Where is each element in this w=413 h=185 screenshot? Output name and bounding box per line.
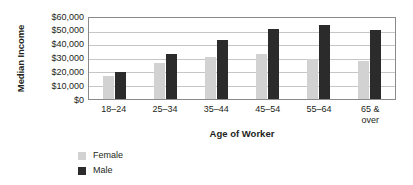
bar-group: [191, 18, 242, 99]
x-axis-tick: 25–34: [139, 104, 190, 125]
x-axis-tick: 45–54: [242, 104, 293, 125]
y-axis-tick: $10,000: [30, 82, 84, 91]
bar-female: [103, 76, 114, 99]
bar-group: [242, 18, 293, 99]
bar-male: [115, 72, 126, 99]
legend-item-male: Male: [78, 163, 123, 178]
y-axis-tick-labels: $0$10,000$20,000$30,000$40,000$50,000$60…: [30, 12, 84, 104]
bar-female: [205, 57, 216, 99]
bar-male: [370, 30, 381, 99]
plot-area: [88, 17, 396, 100]
bar-group: [344, 18, 395, 99]
x-axis-tick: 55–64: [293, 104, 344, 125]
bar-chart: Median Income $0$10,000$20,000$30,000$40…: [0, 0, 413, 185]
bar-group: [89, 18, 140, 99]
legend-swatch-female: [78, 152, 86, 160]
bar-male: [166, 54, 177, 99]
x-axis-tick-labels: 18–2425–3435–4445–5455–6465 & over: [88, 104, 396, 125]
x-axis-title: Age of Worker: [88, 128, 396, 139]
bar-female: [154, 63, 165, 99]
bar-male: [268, 29, 279, 99]
legend-label: Female: [93, 151, 123, 160]
y-axis-tick: $0: [30, 96, 84, 105]
legend-swatch-male: [78, 167, 86, 175]
bar-female: [358, 61, 369, 99]
y-axis-tick: $30,000: [30, 54, 84, 63]
x-axis-tick: 65 & over: [345, 104, 396, 125]
x-axis-tick: 18–24: [88, 104, 139, 125]
legend-label: Male: [93, 166, 113, 175]
legend-item-female: Female: [78, 148, 123, 163]
bar-group: [293, 18, 344, 99]
bars-layer: [89, 18, 395, 99]
x-axis-tick: 35–44: [191, 104, 242, 125]
y-axis-tick: $50,000: [30, 26, 84, 35]
chart-legend: FemaleMale: [78, 148, 123, 178]
y-axis-title: Median Income: [14, 14, 28, 102]
bar-female: [256, 54, 267, 99]
bar-male: [217, 40, 228, 99]
bar-female: [307, 59, 318, 100]
y-axis-tick: $40,000: [30, 40, 84, 49]
y-axis-tick: $20,000: [30, 68, 84, 77]
bar-male: [319, 25, 330, 99]
bar-group: [140, 18, 191, 99]
y-axis-tick: $60,000: [30, 13, 84, 22]
y-axis-title-label: Median Income: [16, 24, 27, 91]
